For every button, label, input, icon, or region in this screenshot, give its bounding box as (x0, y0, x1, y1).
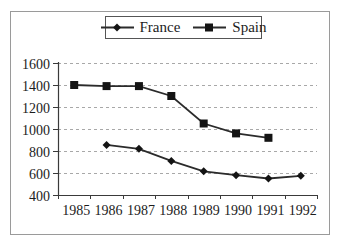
y-tick-label-600: 600 (29, 167, 50, 182)
data-point-spain-1985 (70, 81, 78, 89)
legend: France Spain (105, 16, 262, 39)
legend-entry-france: France (101, 20, 181, 36)
x-tick-label-1989: 1989 (192, 203, 220, 218)
data-point-spain-1991 (264, 134, 272, 142)
data-point-france-1986 (103, 141, 111, 149)
x-tick-label-1987: 1987 (127, 203, 155, 218)
data-point-france-1990 (232, 171, 240, 179)
x-tick-label-1990: 1990 (224, 203, 252, 218)
x-tick-label-1986: 1986 (95, 203, 123, 218)
x-tick-label-1985: 1985 (62, 203, 90, 218)
data-point-france-1991 (264, 175, 272, 183)
data-point-spain-1990 (232, 129, 240, 137)
data-point-spain-1988 (167, 92, 175, 100)
y-tick-label-1400: 1400 (22, 79, 50, 94)
data-point-spain-1987 (135, 82, 143, 90)
legend-entry-spain: Spain (193, 20, 266, 36)
data-point-spain-1989 (200, 120, 208, 128)
y-tick-label-1200: 1200 (22, 101, 50, 116)
legend-label-spain: Spain (232, 20, 266, 36)
y-tick-label-1600: 1600 (22, 57, 50, 72)
x-tick-label-1991: 1991 (256, 203, 284, 218)
x-tick-label-1992: 1992 (289, 203, 317, 218)
data-point-france-1992 (297, 172, 305, 180)
x-tick-label-1988: 1988 (159, 203, 187, 218)
diamond-marker-icon (113, 24, 121, 32)
data-point-france-1988 (167, 157, 175, 165)
data-point-france-1989 (200, 167, 208, 175)
y-tick-label-400: 400 (29, 189, 50, 204)
data-point-spain-1986 (103, 82, 111, 90)
y-tick-label-1000: 1000 (22, 123, 50, 138)
spain-line-marker-sample (193, 21, 226, 34)
france-line-marker-sample (101, 21, 134, 34)
legend-label-france: France (140, 20, 181, 36)
y-tick-label-800: 800 (29, 145, 50, 160)
square-marker-icon (205, 24, 213, 32)
